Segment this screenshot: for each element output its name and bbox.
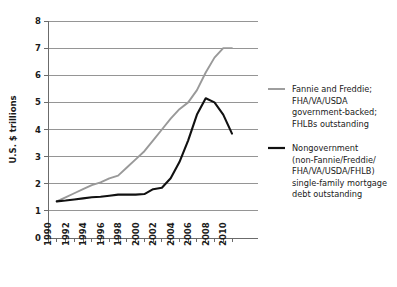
x-tick-label-2006: 2006 [183,222,193,246]
y-tick-label-1: 1 [35,206,41,216]
data-series [57,48,232,201]
y-tick-label-4: 4 [35,125,41,135]
legend-label-0-line-1: FHA/VA/USDA [292,96,348,106]
y-tick-label-6: 6 [35,70,41,80]
legend-label-0-line-3: FHLBs outstanding [292,119,369,129]
x-tick-label-1990: 1990 [43,222,53,246]
y-tick-label-7: 7 [35,43,41,53]
y-tick-label-2: 2 [35,179,41,189]
y-axis [44,21,48,238]
x-tick-label-1996: 1996 [96,222,106,246]
y-axis-title: U.S. $ trillions [8,95,18,163]
chart-container: 012345678 199019921994199619982000200220… [0,0,397,287]
chart-legend: Fannie and Freddie;FHA/VA/USDAgovernment… [268,84,387,199]
series-line-0 [57,48,232,201]
y-tick-label-5: 5 [35,97,41,107]
legend-label-0-line-0: Fannie and Freddie; [292,84,372,94]
legend-label-1-line-1: (non-Fannie/Freddie/ [292,155,376,165]
x-axis-tick-labels: 1990199219941996199820002002200420062008… [43,222,228,246]
grid-lines [48,21,258,211]
y-tick-label-3: 3 [35,152,41,162]
y-axis-title-text: U.S. $ trillions [8,95,18,163]
x-tick-label-2002: 2002 [148,222,158,246]
legend-label-1-line-4: debt outstanding [292,189,362,199]
y-axis-tick-labels: 012345678 [35,16,41,243]
x-tick-label-2008: 2008 [201,222,211,246]
x-tick-label-2004: 2004 [166,222,176,246]
legend-label-1-line-2: FHA/VA/USDA/FHLB) [292,166,375,176]
x-tick-label-1998: 1998 [113,222,123,246]
legend-label-1-line-3: single-family mortgage [292,178,387,188]
y-tick-label-0: 0 [35,233,41,243]
y-tick-label-8: 8 [35,16,41,26]
x-tick-label-2010: 2010 [218,222,228,246]
legend-label-1-line-0: Nongovernment [292,143,359,153]
x-tick-label-2000: 2000 [131,222,141,246]
x-tick-label-1992: 1992 [61,222,71,246]
legend-label-0-line-2: government-backed; [292,107,377,117]
line-chart: 012345678 199019921994199619982000200220… [0,0,397,287]
x-tick-label-1994: 1994 [78,222,88,246]
